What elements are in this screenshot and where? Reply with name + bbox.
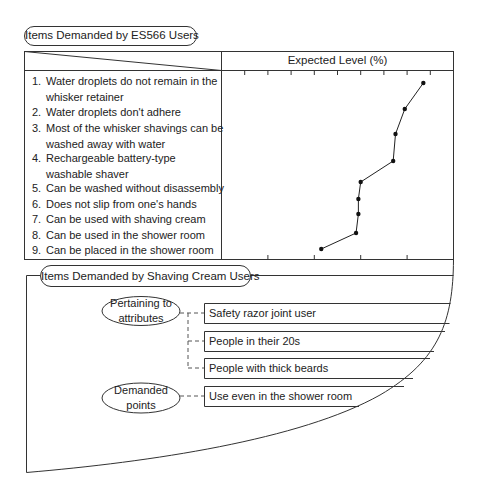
list-item: 9.Can be placed in the shower room [32, 243, 214, 259]
data-point-marker [356, 212, 360, 216]
list-item: 5.Can be washed without disassembly [32, 181, 224, 197]
attributes-label: Pertaining to attributes [102, 296, 180, 326]
shaving-cream-section-title: Items Demanded by Shaving Cream Users [40, 265, 251, 287]
list-item: 8.Can be used in the shower room [32, 228, 205, 244]
list-item: 2.Water droplets don't adhere [32, 105, 181, 121]
data-point-marker [319, 247, 323, 251]
data-point-marker [403, 107, 407, 111]
data-point-marker [421, 81, 425, 85]
demanded-points-label: Demanded points [102, 383, 180, 413]
expected-level-line [321, 83, 423, 249]
item-box-people-20s: People in their 20s [209, 332, 300, 350]
data-point-marker [393, 132, 397, 136]
bottom-axis-ticks [268, 255, 407, 260]
list-item: 6.Does not slip from one's hands [32, 197, 197, 213]
list-item: 1.Water droplets do not remain in the wh… [32, 74, 217, 105]
list-item: 3.Most of the whisker shavings can be wa… [32, 121, 223, 152]
item-box-shower-room: Use even in the shower room [209, 387, 352, 405]
expected-level-markers [319, 81, 425, 251]
list-item: 7.Can be used with shaving cream [32, 212, 206, 228]
data-point-marker [354, 231, 358, 235]
es566-section-title: Items Demanded by ES566 Users [24, 26, 197, 46]
top-axis-ticks [245, 71, 431, 76]
expected-level-header: Expected Level (%) [222, 54, 453, 66]
data-point-marker [356, 197, 360, 201]
dashed-connectors [180, 313, 204, 396]
data-point-marker [359, 180, 363, 184]
header-diagonal [25, 52, 222, 71]
item-box-thick-beards: People with thick beards [209, 359, 328, 377]
data-point-marker [391, 159, 395, 163]
item-box-safety-razor: Safety razor joint user [209, 304, 316, 322]
list-item: 4.Rechargeable battery-type washable sha… [32, 151, 176, 182]
